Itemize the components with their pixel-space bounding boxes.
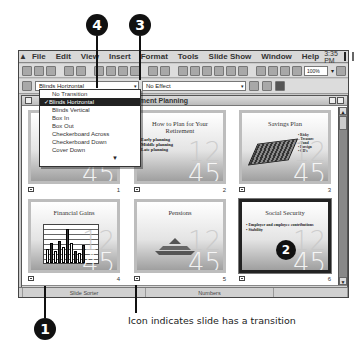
slide-number: 4	[117, 276, 120, 282]
new-icon[interactable]	[22, 66, 32, 76]
slide-decoration: 1245	[188, 230, 221, 273]
show-formatting-icon[interactable]	[268, 66, 278, 76]
scroll-up-icon[interactable]: ▲	[339, 107, 347, 115]
new-slide-icon[interactable]	[238, 66, 248, 76]
zoom-select[interactable]: 100%	[304, 66, 328, 76]
slide-decoration: 1245	[82, 230, 115, 273]
slide-decoration: 1245	[188, 141, 221, 184]
zoom-caret-icon[interactable]: ▾	[331, 67, 334, 74]
preset-animation-select[interactable]: No Effect ▾	[142, 81, 246, 91]
print-icon[interactable]	[64, 66, 74, 76]
slide-number: 2	[223, 187, 226, 193]
office-assistant-icon[interactable]	[336, 66, 346, 76]
slide-meta-6: 6	[239, 274, 331, 283]
transition-option-no-transition[interactable]: No Transition	[40, 90, 140, 98]
status-bar: Slide Sorter Numbers	[19, 287, 348, 297]
copy-icon[interactable]	[106, 66, 116, 76]
callout-3: 3	[129, 14, 151, 36]
transition-option-blinds-vertical[interactable]: Blinds Vertical	[40, 106, 140, 114]
undo-icon[interactable]	[148, 66, 158, 76]
insert-chart-icon[interactable]	[226, 66, 236, 76]
expand-slide-icon[interactable]	[256, 66, 266, 76]
slide-meta-5: 5	[134, 274, 226, 283]
color-icon[interactable]	[292, 66, 302, 76]
transition-option-box-out[interactable]: Box Out	[40, 122, 140, 130]
slide-title: Pensions	[137, 209, 223, 216]
hide-slide-icon[interactable]	[249, 81, 259, 91]
menu-insert[interactable]: Insert	[104, 52, 136, 61]
scroll-thumb[interactable]	[339, 116, 347, 130]
menu-file[interactable]: File	[27, 52, 51, 61]
menu-view[interactable]: View	[76, 52, 104, 61]
menu-bar: ▲ File Edit View Insert Format Tools Sli…	[19, 51, 348, 63]
transition-option-box-in[interactable]: Box In	[40, 114, 140, 122]
callout-4: 4	[86, 14, 108, 36]
slide-title: Social Security	[242, 209, 328, 216]
menu-window[interactable]: Window	[256, 52, 297, 61]
menu-clock: 3:35 PM	[324, 50, 344, 64]
grayscale-icon[interactable]	[280, 66, 290, 76]
slide-transition-icon[interactable]	[22, 81, 32, 91]
slide-number: 1	[117, 187, 120, 193]
effect-select-caret-icon[interactable]: ▾	[241, 82, 244, 91]
save-icon[interactable]	[46, 66, 56, 76]
slide-decoration: 1245	[293, 141, 326, 184]
transition-option-checkerboard-across[interactable]: Checkerboard Across	[40, 130, 140, 138]
transition-option-blinds-horizontal[interactable]: ✓Blinds Horizontal	[40, 98, 140, 106]
hyperlink-icon[interactable]	[178, 66, 188, 76]
callout-1: 1	[34, 318, 56, 340]
transition-icon[interactable]	[134, 187, 140, 192]
callout-2: 2	[276, 240, 296, 260]
caption-leader	[135, 285, 137, 313]
vertical-scrollbar[interactable]: ▲ ▼	[338, 107, 347, 285]
transition-icon[interactable]	[239, 276, 245, 281]
slide-thumbnail-3[interactable]: Savings Plan • Risky – Treasure – Fund •…	[239, 110, 331, 184]
insert-excel-icon[interactable]	[214, 66, 224, 76]
transition-dropdown-list: No Transition ✓Blinds Horizontal Blinds …	[39, 89, 141, 167]
scroll-down-icon[interactable]: ▼	[339, 277, 347, 285]
paste-icon[interactable]	[118, 66, 128, 76]
slide-meta-3: 3	[239, 185, 331, 194]
menu-help[interactable]: Help	[297, 52, 324, 61]
open-icon[interactable]	[34, 66, 44, 76]
menu-edit[interactable]: Edit	[51, 52, 76, 61]
application-icon[interactable]	[344, 52, 346, 61]
spelling-icon[interactable]	[76, 66, 86, 76]
scroll-more-icon[interactable]: ▼	[40, 154, 140, 162]
transition-icon-caption: Icon indicates slide has a transition	[128, 315, 296, 326]
slide-meta-4: 4	[28, 274, 120, 283]
callout-4-leader	[96, 36, 98, 88]
transition-icon[interactable]	[239, 187, 245, 192]
slide-thumbnail-2[interactable]: How to Plan for Your Retirement Early pl…	[134, 110, 226, 184]
apple-menu-icon[interactable]: ▲	[19, 52, 27, 61]
menu-format[interactable]: Format	[136, 52, 173, 61]
transition-option-cover-down[interactable]: Cover Down	[40, 146, 140, 154]
insert-table-icon[interactable]	[202, 66, 212, 76]
collapse-box-icon[interactable]	[337, 97, 344, 104]
transition-icon[interactable]	[28, 187, 34, 192]
slide-meta-1: 1	[28, 185, 120, 194]
slide-number: 5	[223, 276, 226, 282]
status-view: Slide Sorter	[23, 288, 146, 297]
slide-number: 6	[328, 276, 331, 282]
slide-thumbnail-4[interactable]: Financial Gains 1245	[28, 199, 120, 273]
callout-1-leader	[44, 286, 46, 318]
transition-option-checkerboard-down[interactable]: Checkerboard Down	[40, 138, 140, 146]
web-toolbar-icon[interactable]	[190, 66, 200, 76]
rehearse-timings-icon[interactable]	[262, 81, 272, 91]
menu-tools[interactable]: Tools	[173, 52, 204, 61]
zoom-box-icon[interactable]	[329, 97, 336, 104]
redo-icon[interactable]	[160, 66, 170, 76]
transition-icon[interactable]	[28, 276, 34, 281]
money-clipart-image	[248, 138, 298, 165]
app-switcher-icon[interactable]	[352, 52, 354, 61]
transition-icon[interactable]	[134, 276, 140, 281]
slide-thumbnail-5[interactable]: Pensions 1245	[134, 199, 226, 273]
close-box-icon[interactable]	[25, 97, 32, 104]
slide-thumbnail-6[interactable]: Social Security • Employer and employee …	[239, 199, 331, 273]
menu-slide-show[interactable]: Slide Show	[204, 52, 257, 61]
slide-bullets: Early planning Middle planning Late plan…	[141, 137, 173, 152]
standard-toolbar: 100% ▾	[19, 64, 348, 78]
slide-meta-2: 2	[134, 185, 226, 194]
summary-slide-icon[interactable]	[275, 81, 285, 91]
